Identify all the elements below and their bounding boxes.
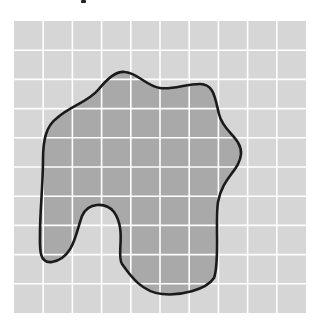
area-grid-diagram [0,0,317,329]
